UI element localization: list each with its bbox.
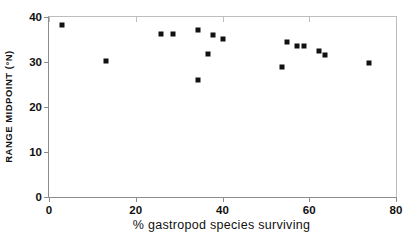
data-point bbox=[195, 28, 200, 33]
data-point bbox=[322, 52, 327, 57]
y-axis-title-label: RANGE MIDPOINT (°N) bbox=[3, 50, 14, 163]
data-point bbox=[195, 78, 200, 83]
data-point bbox=[220, 37, 225, 42]
x-axis-tick-label: 40 bbox=[216, 204, 229, 216]
x-axis-tick bbox=[49, 197, 50, 202]
data-point bbox=[205, 51, 210, 56]
data-point bbox=[210, 33, 215, 38]
y-axis-title: RANGE MIDPOINT (°N) bbox=[0, 16, 16, 196]
x-axis-tick-top bbox=[396, 17, 397, 22]
data-point bbox=[316, 49, 321, 54]
data-point bbox=[284, 40, 289, 45]
data-point bbox=[279, 64, 284, 69]
x-axis-tick bbox=[223, 197, 224, 202]
x-axis-tick-top bbox=[309, 17, 310, 22]
data-point bbox=[302, 43, 307, 48]
data-point bbox=[60, 23, 65, 28]
plot-area: 010203040020406080 bbox=[48, 16, 397, 198]
y-axis-tick bbox=[44, 107, 49, 108]
x-axis-tick-label: 20 bbox=[129, 204, 142, 216]
y-axis-tick-label: 20 bbox=[29, 101, 42, 113]
x-axis-tick-top bbox=[136, 17, 137, 22]
y-axis-tick-label: 0 bbox=[36, 191, 42, 203]
x-axis-tick-label: 80 bbox=[390, 204, 403, 216]
x-axis-tick-label: 0 bbox=[46, 204, 52, 216]
x-axis-tick bbox=[136, 197, 137, 202]
data-point bbox=[171, 32, 176, 37]
scatter-plot-figure: RANGE MIDPOINT (°N) 010203040020406080 %… bbox=[0, 0, 413, 242]
x-axis-tick-top bbox=[49, 17, 50, 22]
x-axis-tick bbox=[396, 197, 397, 202]
data-point bbox=[366, 60, 371, 65]
data-point bbox=[103, 59, 108, 64]
data-point bbox=[158, 32, 163, 37]
y-axis-tick bbox=[44, 152, 49, 153]
x-axis-title: % gastropod species surviving bbox=[48, 218, 395, 232]
data-point bbox=[294, 43, 299, 48]
y-axis-tick-label: 10 bbox=[29, 146, 42, 158]
x-axis-tick bbox=[309, 197, 310, 202]
x-axis-tick-top bbox=[223, 17, 224, 22]
y-axis-tick-label: 40 bbox=[29, 11, 42, 23]
y-axis-tick-label: 30 bbox=[29, 56, 42, 68]
y-axis-tick bbox=[44, 62, 49, 63]
x-axis-tick-label: 60 bbox=[303, 204, 316, 216]
